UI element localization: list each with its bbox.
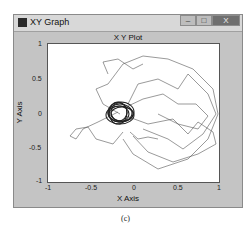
figure-caption: (c) bbox=[0, 214, 251, 223]
xy-graph-window: XY Graph – □ X X Y Plot bbox=[13, 14, 243, 208]
x-tick: 0 bbox=[132, 184, 136, 191]
title-bar[interactable]: XY Graph – □ X bbox=[14, 15, 242, 32]
close-button[interactable]: X bbox=[212, 15, 240, 26]
minimize-button[interactable]: – bbox=[180, 15, 196, 26]
x-axis-label: X Axis bbox=[14, 194, 242, 203]
y-tick: 0 bbox=[38, 110, 42, 117]
y-tick: 0.5 bbox=[32, 75, 42, 82]
x-tick: -1 bbox=[45, 184, 51, 191]
xy-trajectory-plot bbox=[48, 44, 219, 182]
plot-area: 1 0.5 0 -0.5 -1 -1 -0.5 0 0.5 1 bbox=[47, 43, 220, 183]
app-icon bbox=[18, 18, 27, 27]
maximize-button[interactable]: □ bbox=[196, 15, 212, 26]
x-tick: 0.5 bbox=[173, 184, 183, 191]
plot-title: X Y Plot bbox=[14, 33, 242, 42]
y-tick: -0.5 bbox=[29, 144, 41, 151]
y-tick: 1 bbox=[38, 40, 42, 47]
x-tick: -0.5 bbox=[85, 184, 97, 191]
y-axis-label: Y Axis bbox=[15, 101, 24, 123]
y-tick: -1 bbox=[36, 177, 42, 184]
window-title: XY Graph bbox=[30, 17, 69, 27]
x-tick: 1 bbox=[217, 184, 221, 191]
